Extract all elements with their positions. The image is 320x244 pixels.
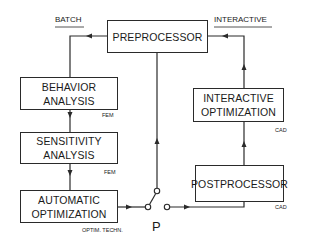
switch-upper-terminal-icon	[154, 188, 159, 193]
edge-preprocessor-to-behavior	[70, 36, 107, 77]
arrowhead-right-icon	[126, 205, 132, 210]
behavior-analysis-label-line2: ANALYSIS	[42, 94, 96, 108]
interactive-optimization-label-line2: OPTIMIZATION	[201, 105, 276, 119]
arrowhead-down-icon	[68, 112, 73, 118]
interactive-optimization-node: INTERACTIVE OPTIMIZATION	[193, 88, 284, 122]
arrowhead-right-icon	[184, 205, 190, 210]
sensitivity-analysis-tag: FEM	[104, 169, 116, 175]
switch-arm	[150, 194, 156, 205]
edge-switch-to-postprocessor	[170, 202, 244, 207]
arrowhead-left-icon	[222, 34, 228, 39]
arrowhead-down-icon	[68, 170, 73, 176]
behavior-analysis-node: BEHAVIOR ANALYSIS	[20, 77, 118, 110]
sensitivity-analysis-label-line1: SENSITIVITY	[36, 134, 101, 148]
automatic-optimization-tag: OPTIM. TECHN.	[82, 227, 123, 233]
arrowhead-up-icon	[242, 141, 247, 147]
preprocessor-label: PREPROCESSOR	[113, 30, 203, 44]
edge-interactive-to-preprocessor	[208, 36, 244, 88]
sensitivity-analysis-node: SENSITIVITY ANALYSIS	[20, 132, 118, 164]
batch-mode-label: BATCH	[55, 15, 82, 24]
sensitivity-analysis-label-line2: ANALYSIS	[36, 148, 101, 162]
behavior-analysis-label-line1: BEHAVIOR	[42, 80, 96, 94]
postprocessor-label: POSTPROCESSOR	[191, 177, 288, 191]
postprocessor-node: POSTPROCESSOR	[195, 165, 284, 202]
interactive-optimization-tag: CAD	[275, 127, 287, 133]
arrowhead-up-icon	[155, 138, 160, 144]
automatic-optimization-label-line1: AUTOMATIC	[31, 193, 106, 207]
automatic-optimization-node: AUTOMATIC OPTIMIZATION	[20, 190, 118, 223]
behavior-analysis-tag: FEM	[102, 112, 114, 118]
switch-right-terminal-icon	[164, 204, 169, 209]
switch-pivot-terminal-icon	[145, 204, 150, 209]
arrowhead-left-icon	[86, 34, 92, 39]
interactive-mode-label: INTERACTIVE	[214, 15, 267, 24]
interactive-optimization-label-line1: INTERACTIVE	[201, 91, 276, 105]
automatic-optimization-label-line2: OPTIMIZATION	[31, 207, 106, 221]
postprocessor-tag: CAD	[275, 204, 287, 210]
arrowhead-up-icon	[242, 64, 247, 70]
switch-p-label: P	[152, 219, 161, 234]
preprocessor-node: PREPROCESSOR	[107, 20, 208, 53]
